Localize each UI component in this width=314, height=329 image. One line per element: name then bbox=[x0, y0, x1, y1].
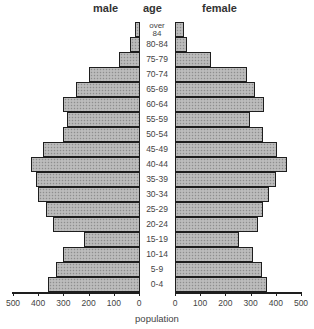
age-label: 60-64 bbox=[139, 97, 175, 112]
age-label: 20-24 bbox=[139, 217, 175, 232]
male-x-tick-label: 400 bbox=[26, 298, 50, 308]
male-bar bbox=[76, 82, 140, 97]
female-bar bbox=[175, 22, 184, 37]
female-bar bbox=[175, 232, 239, 247]
male-bar bbox=[43, 142, 140, 157]
female-x-tick bbox=[225, 292, 226, 296]
age-label: 5-9 bbox=[139, 262, 175, 277]
age-label: 70-74 bbox=[139, 67, 175, 82]
age-label: 75-79 bbox=[139, 52, 175, 67]
female-bar bbox=[175, 157, 287, 172]
male-x-tick bbox=[89, 292, 90, 296]
age-label: 25-29 bbox=[139, 202, 175, 217]
female-x-tick-label: 200 bbox=[213, 298, 237, 308]
male-bar bbox=[119, 52, 140, 67]
male-bar bbox=[63, 127, 140, 142]
male-bar bbox=[89, 67, 140, 82]
male-x-tick bbox=[139, 292, 140, 296]
population-pyramid-chart: over8480-8475-7970-7465-6960-6455-5950-5… bbox=[0, 0, 314, 329]
female-bar bbox=[175, 202, 263, 217]
age-label: 30-34 bbox=[139, 187, 175, 202]
male-x-tick bbox=[13, 292, 14, 296]
female-x-tick-label: 500 bbox=[289, 298, 313, 308]
age-label: 80-84 bbox=[139, 37, 175, 52]
male-bar bbox=[67, 112, 140, 127]
age-label: 65-69 bbox=[139, 82, 175, 97]
female-bar bbox=[175, 52, 211, 67]
female-x-axis bbox=[175, 292, 302, 294]
female-bar bbox=[175, 97, 264, 112]
age-label: 0-4 bbox=[139, 277, 175, 292]
female-bar bbox=[175, 262, 262, 277]
female-bar bbox=[175, 217, 258, 232]
male-bar bbox=[31, 157, 140, 172]
female-x-tick-label: 300 bbox=[239, 298, 263, 308]
male-bar bbox=[48, 277, 140, 292]
female-x-tick-label: 0 bbox=[163, 298, 187, 308]
male-x-tick bbox=[114, 292, 115, 296]
female-bar bbox=[175, 142, 277, 157]
male-x-tick bbox=[38, 292, 39, 296]
age-label: 40-44 bbox=[139, 157, 175, 172]
age-label: 45-49 bbox=[139, 142, 175, 157]
age-label: 50-54 bbox=[139, 127, 175, 142]
female-bar bbox=[175, 247, 253, 262]
age-label: over84 bbox=[139, 22, 175, 37]
male-x-axis bbox=[12, 292, 140, 294]
male-bar bbox=[84, 232, 140, 247]
male-bar bbox=[46, 202, 140, 217]
female-x-tick bbox=[175, 292, 176, 296]
female-bar bbox=[175, 82, 255, 97]
age-label: 15-19 bbox=[139, 232, 175, 247]
female-x-tick-label: 400 bbox=[264, 298, 288, 308]
male-zero-axis bbox=[139, 22, 141, 292]
female-bar bbox=[175, 277, 267, 292]
female-x-tick-label: 100 bbox=[188, 298, 212, 308]
female-zero-axis bbox=[175, 22, 177, 292]
female-bar bbox=[175, 67, 247, 82]
age-label: 35-39 bbox=[139, 172, 175, 187]
female-bar bbox=[175, 112, 250, 127]
female-bar bbox=[175, 172, 276, 187]
male-x-tick bbox=[63, 292, 64, 296]
male-x-tick-label: 0 bbox=[127, 298, 151, 308]
female-bar bbox=[175, 37, 187, 52]
age-label: 55-59 bbox=[139, 112, 175, 127]
female-x-tick bbox=[200, 292, 201, 296]
female-x-tick bbox=[251, 292, 252, 296]
female-x-tick bbox=[276, 292, 277, 296]
male-x-tick-label: 100 bbox=[102, 298, 126, 308]
male-bar bbox=[63, 97, 140, 112]
male-bar bbox=[53, 217, 140, 232]
x-axis-title: population bbox=[0, 313, 314, 324]
male-bar bbox=[63, 247, 140, 262]
male-bar bbox=[56, 262, 140, 277]
male-bar bbox=[38, 187, 140, 202]
male-x-tick-label: 300 bbox=[51, 298, 75, 308]
age-label: 10-14 bbox=[139, 247, 175, 262]
female-bar bbox=[175, 127, 263, 142]
male-bar bbox=[36, 172, 140, 187]
female-bar bbox=[175, 187, 269, 202]
female-x-tick bbox=[301, 292, 302, 296]
male-x-tick-label: 200 bbox=[77, 298, 101, 308]
male-x-tick-label: 500 bbox=[1, 298, 25, 308]
